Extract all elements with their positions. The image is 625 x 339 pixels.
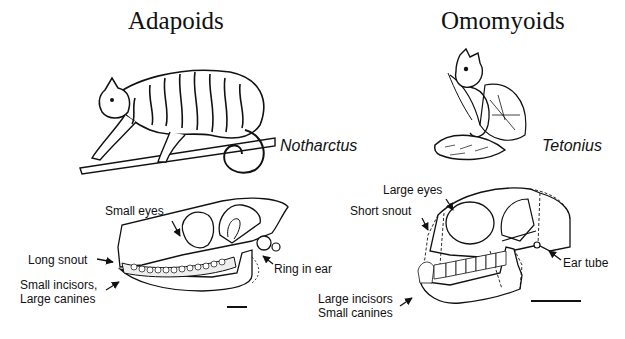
- right-arrows: [0, 0, 625, 339]
- large-eyes-arrow-icon: [446, 199, 453, 210]
- teeth-arrow-icon-right: [400, 298, 412, 306]
- short-snout-arrow-icon: [422, 218, 428, 230]
- ear-tube-arrow-icon: [549, 251, 561, 260]
